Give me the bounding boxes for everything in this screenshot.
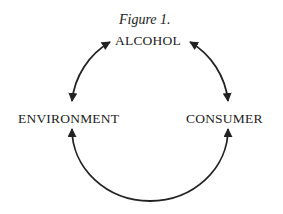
node-consumer: CONSUMER [186, 112, 263, 126]
node-environment: ENVIRONMENT [18, 112, 119, 126]
arrow-alcohol-consumer [190, 42, 228, 101]
node-alcohol: ALCOHOL [115, 34, 181, 48]
figure-title: Figure 1. [119, 13, 171, 27]
arrow-environment-consumer [72, 129, 228, 201]
arrow-alcohol-environment [72, 42, 110, 101]
